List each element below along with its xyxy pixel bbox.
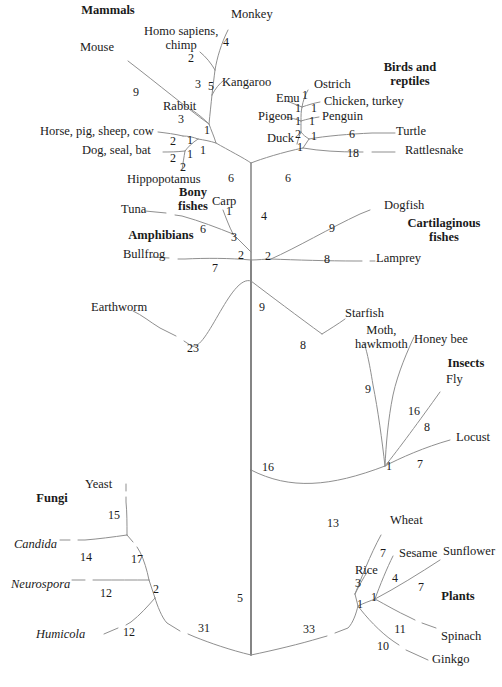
taxon-label-chicken-turkey: Chicken, turkey (324, 95, 404, 109)
branch-moth (364, 343, 385, 466)
taxon-label-hippopotamus: Hippopotamus (127, 173, 201, 187)
branch-length-horse: 2 (170, 135, 176, 148)
taxon-label-ginkgo: Ginkgo (432, 653, 470, 667)
group-label-amphibians: Amphibians (128, 229, 193, 243)
branch-length-carp: 1 (226, 205, 232, 218)
taxon-label-duck: Duck (267, 132, 294, 146)
branch-yeast (126, 484, 127, 535)
branch-length-chordate-stem: 9 (259, 301, 265, 314)
taxon-label-humicola: Humicola (36, 628, 85, 642)
group-label-bony-fishes: Bony fishes (178, 185, 208, 213)
taxon-chimp: chimp (144, 39, 218, 53)
branch-length-bonyfish-stem: 3 (231, 231, 237, 244)
branch-length-bird-node: 1 (311, 130, 317, 143)
branch-bird-node (303, 139, 309, 148)
taxon-label-penguin: Penguin (322, 110, 363, 124)
branch-candida (60, 535, 127, 540)
taxon-label-lamprey: Lamprey (376, 252, 421, 266)
taxon-label-carp: Carp (212, 195, 236, 209)
branch-length-fungi-17: 17 (131, 553, 143, 566)
branch-length-rabbit-node: 1 (204, 124, 210, 137)
branch-length-rice: 3 (355, 577, 361, 590)
taxon-label-honey-bee: Honey bee (414, 333, 468, 347)
taxon-label-candida: Candida (14, 538, 57, 552)
group-label-bonyfishes-line2: fishes (178, 199, 208, 213)
taxon-label-sesame: Sesame (399, 547, 437, 561)
taxon-label-monkey: Monkey (231, 8, 273, 22)
taxon-label-bullfrog: Bullfrog (123, 248, 165, 262)
branch-length-honeybee: 16 (408, 405, 420, 418)
taxon-label-homo-sapiens-chimp: Homo sapiens, chimp (144, 25, 218, 52)
branch-bullfrog (152, 257, 251, 260)
branch-length-sesame: 4 (392, 572, 398, 585)
branch-length-locust: 7 (417, 458, 423, 471)
branch-length-fungi-stem: 31 (198, 622, 210, 635)
branch-length-duck: 1 (297, 141, 303, 154)
branch-length-turtle: 6 (349, 128, 355, 141)
branch-length-yeast: 15 (108, 509, 120, 522)
group-label-birds-line2: reptiles (384, 74, 436, 88)
branch-duck-node (301, 132, 309, 139)
branch-length-mouse: 9 (133, 86, 139, 99)
branch-length-starfish: 8 (300, 339, 306, 352)
group-label-bonyfishes-line1: Bony (178, 185, 208, 199)
branch-length-bullfrog: 7 (212, 262, 218, 275)
branch-length-rabbit: 3 (178, 113, 184, 126)
branch-length-horse-node: 1 (187, 134, 193, 147)
branch-length-homo-chimp: 2 (188, 52, 194, 65)
taxon-label-earthworm: Earthworm (91, 301, 147, 315)
branch-earthworm (133, 280, 251, 346)
branch-primate-node (209, 95, 212, 124)
branch-length-chicken: 1 (311, 102, 317, 115)
branch-length-moth: 9 (365, 383, 371, 396)
branch-length-fly: 8 (424, 421, 430, 434)
taxon-label-ostrich: Ostrich (314, 78, 351, 92)
branch-starfish (322, 319, 345, 334)
branch-length-spinach: 11 (394, 623, 406, 636)
group-label-fungi: Fungi (36, 492, 67, 506)
taxon-label-fly: Fly (446, 373, 463, 387)
branch-length-dog: 2 (170, 152, 176, 165)
group-label-cartilaginous-line2: fishes (408, 230, 481, 244)
branch-length-dogfish: 9 (329, 222, 335, 235)
branch-length-trunk-16: 16 (262, 461, 274, 474)
branch-length-insect-node: 1 (386, 460, 392, 473)
branch-length-tuna: 6 (200, 223, 206, 236)
branch-bird-upper (301, 107, 302, 121)
branch-ginkgo (358, 606, 428, 660)
taxon-homo-sapiens: Homo sapiens, (144, 25, 218, 39)
taxon-label-sunflower: Sunflower (443, 545, 495, 559)
branch-length-mammal-stem: 6 (228, 172, 234, 185)
taxon-label-dog-seal-bat: Dog, seal, bat (82, 144, 151, 158)
branch-length-gnathostome-node: 2 (265, 250, 271, 263)
branch-length-humicola: 12 (123, 626, 135, 639)
taxon-label-tuna: Tuna (121, 203, 146, 217)
branch-length-monocot-node: 1 (357, 598, 363, 611)
taxon-moth: Moth, (355, 324, 408, 338)
branch-length-monkey: 4 (223, 36, 229, 49)
branch-length-fungi-node-2: 2 (153, 583, 159, 596)
branch-length-arthropod-stem: 13 (327, 517, 339, 530)
branch-dogfish (271, 210, 370, 259)
group-label-insects: Insects (448, 357, 485, 371)
branch-length-penguin: 1 (309, 115, 315, 128)
taxon-label-wheat: Wheat (390, 514, 423, 528)
branch-length-pigeon: 1 (295, 115, 301, 128)
branch-mouse (128, 61, 209, 124)
branch-length-earthworm: 23 (187, 342, 199, 355)
branch-length-ginkgo: 10 (377, 640, 389, 653)
group-label-plants: Plants (441, 590, 474, 604)
branch-length-rattlesnake: 18 (347, 147, 359, 160)
taxon-label-spinach: Spinach (441, 630, 481, 644)
branch-length-plant-stem: 33 (303, 623, 315, 636)
taxon-label-rattlesnake: Rattlesnake (405, 144, 463, 158)
branch-length-bird-stem: 6 (285, 172, 291, 185)
branch-mammal-stem (216, 143, 251, 163)
branch-length-lamprey: 8 (324, 253, 330, 266)
group-label-birds-and-reptiles: Birds and reptiles (384, 60, 436, 88)
branch-bird-stem (251, 148, 303, 163)
branch-length-kangaroo: 3 (195, 78, 201, 91)
taxon-label-mouse: Mouse (80, 41, 114, 55)
group-label-cartilaginous-line1: Cartilaginous (408, 216, 481, 230)
branch-length-primate-node: 5 (208, 80, 214, 93)
